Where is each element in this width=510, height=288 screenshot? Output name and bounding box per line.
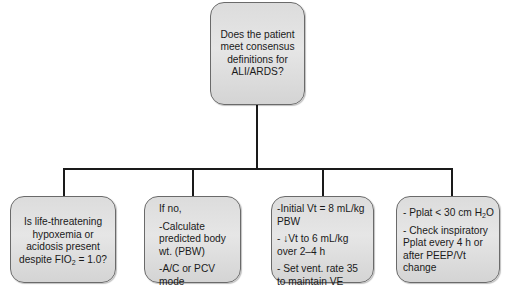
root-question: Does the patient meet consensus definiti…: [217, 29, 298, 79]
hypoxemia-check-box: Is life-threatening hypoxemia or acidosi…: [10, 196, 116, 283]
ventilation-mode-step: -A/C or PCV mode: [159, 263, 234, 288]
initial-vt-step: -Initial Vt = 8 mL/kg PBW: [277, 203, 369, 228]
drop-connector-1: [63, 168, 65, 196]
vent-rate-step: - Set vent. rate 35 to maintain VE: [277, 263, 369, 288]
drop-connector-4: [451, 168, 453, 196]
horizontal-connector: [63, 168, 452, 170]
drop-connector-3: [322, 168, 324, 196]
reduce-vt-step: - ↓Vt to 6 mL/kg over 2–4 h: [277, 233, 369, 258]
root-decision-box: Does the patient meet consensus definiti…: [210, 2, 305, 105]
drop-connector-2: [192, 168, 194, 196]
tidal-volume-box: -Initial Vt = 8 mL/kg PBW - ↓Vt to 6 mL/…: [271, 196, 374, 283]
pplat-limit-step: - Pplat < 30 cm H2O: [403, 207, 495, 220]
hypoxemia-question: Is life-threatening hypoxemia or acidosi…: [15, 216, 111, 266]
if-no-box: If no, -Calculate predicted body wt. (PB…: [144, 196, 241, 283]
calculate-pbw-step: -Calculate predicted body wt. (PBW): [159, 221, 234, 259]
check-pplat-step: - Check inspiratory Pplat every 4 h or a…: [403, 225, 495, 275]
if-no-label: If no,: [159, 203, 234, 216]
plateau-pressure-box: - Pplat < 30 cm H2O - Check inspiratory …: [396, 196, 500, 283]
root-connector: [256, 105, 258, 169]
